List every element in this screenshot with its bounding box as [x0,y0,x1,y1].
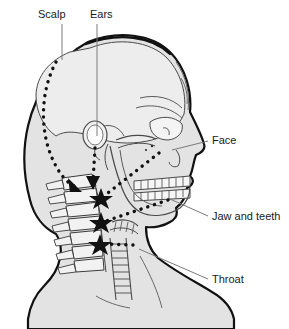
diagram-canvas: Scalp Ears Face Jaw and teeth Throat [0,0,289,329]
label-jaw-and-teeth-text: Jaw and teeth [212,210,281,222]
label-scalp-text: Scalp [38,8,66,20]
label-jaw-and-teeth: Jaw and teeth [170,199,281,222]
referred-pain-diagram: Scalp Ears Face Jaw and teeth Throat [0,0,289,329]
label-scalp: Scalp [38,8,66,60]
label-throat-text: Throat [212,273,244,285]
label-ears-text: Ears [90,8,113,20]
label-face-text: Face [212,134,236,146]
